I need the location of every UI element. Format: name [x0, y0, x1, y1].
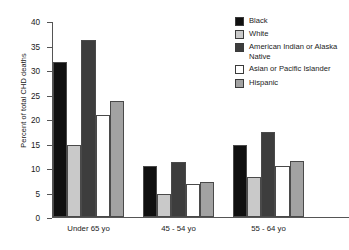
bar-group [53, 21, 124, 217]
bar [290, 161, 304, 216]
legend-label: Black [249, 16, 268, 25]
legend-label: White [249, 29, 268, 38]
legend-swatch-icon [235, 79, 244, 88]
bar [186, 184, 200, 217]
legend: BlackWhiteAmerican Indian or Alaska Nati… [235, 16, 349, 91]
legend-label: Hispanic [249, 78, 278, 87]
bar [261, 132, 275, 217]
x-axis-category-label: 55 - 64 yo [233, 224, 304, 233]
x-axis-category-labels: Under 65 yo45 - 54 yo55 - 64 yo [53, 224, 349, 233]
legend-item[interactable]: Asian or Pacific Islander [235, 64, 349, 74]
y-axis-tick-label: 35 [31, 42, 40, 51]
bar-group [143, 21, 214, 217]
legend-item[interactable]: Black [235, 16, 349, 26]
y-axis-tick: 20 [47, 120, 52, 121]
y-axis-tick: 15 [47, 145, 52, 146]
y-axis-tick-label: 10 [31, 165, 40, 174]
legend-label: Asian or Pacific Islander [249, 64, 330, 73]
y-axis-tick-label: 5 [35, 189, 40, 198]
y-axis-tick: 35 [47, 47, 52, 48]
bar [171, 162, 185, 217]
legend-swatch-icon [235, 30, 244, 39]
bar [200, 182, 214, 217]
y-axis-tick-label: 30 [31, 67, 40, 76]
bar [275, 166, 289, 217]
y-axis-tick: 10 [47, 169, 52, 170]
bar [96, 115, 110, 217]
bar [157, 194, 171, 217]
y-axis-tick: 40 [47, 22, 52, 23]
plot-area: 4035302520151050 [52, 22, 226, 218]
bar [81, 40, 95, 216]
bar [143, 166, 157, 217]
y-axis-tick: 30 [47, 71, 52, 72]
y-axis-tick: 5 [47, 194, 52, 195]
x-axis-category-label: 45 - 54 yo [143, 224, 214, 233]
y-axis-tick-label: 40 [31, 18, 40, 27]
legend-item[interactable]: Hispanic [235, 78, 349, 88]
legend-label: American Indian or Alaska Native [249, 42, 349, 61]
legend-swatch-icon [235, 65, 244, 74]
y-axis-tick: 0 [47, 218, 52, 219]
legend-swatch-icon [235, 17, 244, 26]
bar [67, 145, 81, 217]
x-axis-line [52, 217, 349, 218]
y-axis-tick: 25 [47, 96, 52, 97]
bar [247, 177, 261, 217]
legend-item[interactable]: American Indian or Alaska Native [235, 42, 349, 61]
y-axis-tick-label: 15 [31, 140, 40, 149]
y-axis-title: Percent of total CHD deaths [19, 21, 28, 181]
chart-container: Percent of total CHD deaths 403530252015… [0, 0, 349, 250]
y-axis-tick-label: 0 [35, 214, 40, 223]
bar [53, 62, 67, 217]
legend-swatch-icon [235, 43, 244, 52]
y-axis-tick-label: 20 [31, 116, 40, 125]
bar [110, 101, 124, 217]
y-axis-tick-label: 25 [31, 91, 40, 100]
x-axis-category-label: Under 65 yo [53, 224, 124, 233]
legend-item[interactable]: White [235, 29, 349, 39]
bar [233, 145, 247, 217]
